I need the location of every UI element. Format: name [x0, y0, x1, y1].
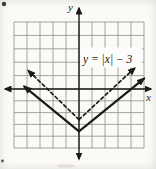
absolute-value-solid-arm: [79, 79, 144, 132]
figure-container: y = |x| − 3 y x: [0, 0, 156, 169]
scan-speck-top-left: [2, 2, 6, 6]
scan-smudge-bottom: [57, 164, 75, 167]
x-axis-label: x: [145, 91, 151, 103]
absolute-value-solid-curve: [24, 79, 144, 132]
equation-label: y = |x| − 3: [82, 53, 133, 66]
function-plot: y = |x| − 3 y x: [0, 0, 156, 169]
scan-speck-bottom-left: [1, 160, 4, 163]
y-axis-label: y: [67, 1, 73, 13]
